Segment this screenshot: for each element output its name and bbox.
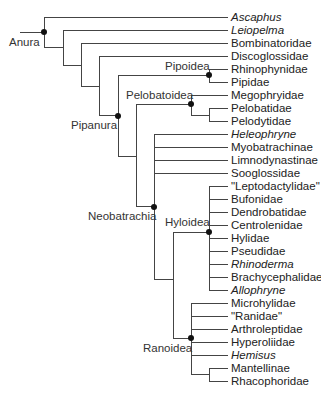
leaf-label: Rhinophynidae (231, 63, 308, 75)
leaf-label: Pipidae (231, 76, 269, 88)
clade-label-ranoidea: Ranoidea (143, 342, 193, 354)
clade-labels: Anura Pipanura Pipoidea Pelobatoidea Neo… (9, 36, 210, 354)
clade-label-anura: Anura (9, 36, 40, 48)
leaf-label: Centrolenidae (231, 219, 303, 231)
leaf-label: "Ranidae" (231, 310, 282, 322)
leaf-label: Hylidae (231, 232, 269, 244)
pipoidea-node (206, 72, 212, 78)
leaf-label: Limnodynastinae (231, 154, 318, 166)
leaf-label: Bombinatoridae (231, 37, 312, 49)
leaf-label: "Leptodactylidae" (231, 180, 320, 192)
phylogenetic-tree: Anura Pipanura Pipoidea Pelobatoidea Neo… (0, 0, 321, 400)
leaf-label: Pseudidae (231, 245, 285, 257)
ranoidea-node (188, 335, 194, 341)
leaf-label: Rhinoderma (231, 258, 294, 270)
leaf-label: Pelobatidae (231, 102, 292, 114)
leaf-label: Ascaphus (230, 11, 282, 23)
clade-label-neobatrachia: Neobatrachia (88, 210, 157, 222)
leaf-label: Mantellinae (231, 362, 290, 374)
anura-node (41, 29, 47, 35)
clade-label-pipoidea: Pipoidea (165, 60, 210, 72)
leaf-label: Microhylidae (231, 297, 296, 309)
leaf-label: Pelodytidae (231, 115, 291, 127)
leaf-label: Heleophryne (231, 128, 296, 140)
leaf-label: Myobatrachinae (231, 141, 313, 153)
leaf-label: Megophryidae (231, 89, 304, 101)
leaf-label: Arthroleptidae (231, 323, 303, 335)
clade-label-pipanura: Pipanura (71, 119, 118, 131)
leaf-label: Sooglossidae (231, 167, 300, 179)
leaf-label: Allophryne (230, 284, 285, 296)
leaf-label: Brachycephalidae (231, 271, 321, 283)
leaf-label: Dendrobatidae (231, 206, 306, 218)
leaf-label: Discoglossidae (231, 50, 308, 62)
pelobatoidea-node (188, 101, 194, 107)
leaf-label: Rhacophoridae (231, 375, 309, 387)
leaf-label: Leiopelma (231, 24, 284, 36)
hyloidea-node (206, 229, 212, 235)
clade-label-pelobatoidea: Pelobatoidea (126, 89, 194, 101)
leaf-label: Hemisus (231, 349, 276, 361)
leaf-label: Hyperoliidae (231, 336, 295, 348)
nodes (41, 29, 212, 341)
leaf-labels: Ascaphus Leiopelma Bombinatoridae Discog… (230, 11, 321, 387)
clade-label-hyloidea: Hyloidea (165, 216, 210, 228)
leaf-label: Bufonidae (231, 193, 283, 205)
